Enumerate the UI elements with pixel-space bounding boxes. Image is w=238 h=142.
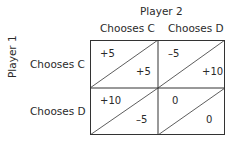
row-header-d: Chooses D [30,105,86,117]
payoff-player2: 0 [206,114,212,125]
payoff-matrix: +5 +5 –5 +10 +10 –5 0 0 [90,40,225,135]
payoff-player2: +5 [136,66,151,77]
payoff-player1: +10 [100,95,121,106]
player-2-label: Player 2 [140,5,183,17]
cell-cc: +5 +5 [90,40,158,88]
cell-dd: 0 0 [158,88,225,135]
payoff-player1: 0 [172,95,178,106]
cell-cd: –5 +10 [158,40,225,88]
player-1-label: Player 1 [6,35,18,78]
row-header-c: Chooses C [30,58,85,70]
cell-dc: +10 –5 [90,88,158,135]
payoff-player2: –5 [136,114,147,125]
payoff-player1: –5 [168,48,179,59]
payoff-player1: +5 [100,48,115,59]
column-header-c: Chooses C [100,22,155,34]
column-header-d: Chooses D [168,22,224,34]
payoff-player2: +10 [202,66,223,77]
